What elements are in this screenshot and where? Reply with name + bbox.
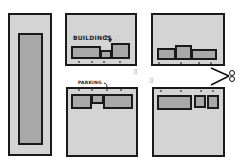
marker (91, 89, 93, 91)
top-middle-building-3 (111, 43, 130, 59)
marker (78, 89, 80, 91)
marker (120, 89, 122, 91)
marker (78, 61, 80, 63)
scissors-icon (209, 67, 238, 87)
marker (180, 90, 182, 92)
top-middle-building-1 (71, 46, 101, 59)
bottom-right-building-2 (194, 95, 206, 108)
marker (210, 62, 212, 64)
top-right-building-3 (191, 49, 217, 60)
marker (180, 62, 182, 64)
small-mark-icon: ▯ (134, 67, 137, 74)
marker (158, 62, 160, 64)
marker (106, 89, 108, 91)
top-right-building-2 (175, 45, 192, 60)
marker (212, 90, 214, 92)
bottom-middle-building-3 (103, 94, 133, 109)
bottom-middle-building-1 (71, 94, 92, 109)
marker (198, 62, 200, 64)
small-mark-icon: ▯ (150, 76, 153, 83)
parking-label: PARKING (78, 80, 102, 85)
marker (160, 90, 162, 92)
marker (103, 61, 105, 63)
top-right-building-1 (157, 48, 176, 60)
strip-building (18, 33, 43, 145)
bottom-right-building-3 (207, 95, 219, 109)
bottom-right-building-1 (157, 95, 192, 110)
marker (200, 90, 202, 92)
marker (119, 61, 121, 63)
marker (91, 61, 93, 63)
